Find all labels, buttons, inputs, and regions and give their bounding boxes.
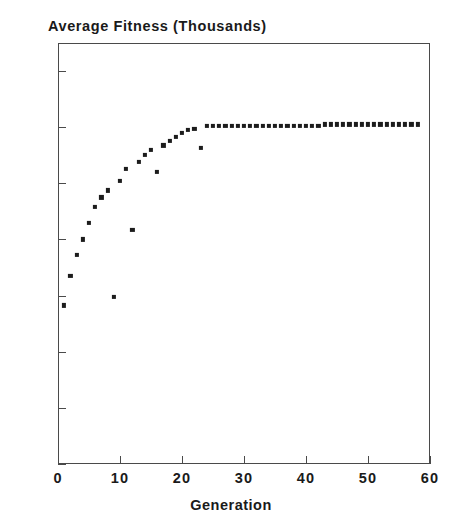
data-point xyxy=(236,124,240,128)
data-point xyxy=(174,135,178,139)
data-point xyxy=(149,148,153,152)
data-point xyxy=(199,146,203,150)
data-point xyxy=(87,221,91,225)
data-point xyxy=(248,124,252,128)
data-point xyxy=(161,143,165,147)
data-point xyxy=(75,253,79,257)
data-point xyxy=(385,122,389,126)
data-point xyxy=(273,124,277,128)
data-point xyxy=(323,122,327,126)
data-point xyxy=(347,122,351,126)
data-point xyxy=(68,274,72,278)
data-point xyxy=(168,139,172,143)
data-point xyxy=(155,170,159,174)
data-point xyxy=(279,124,283,128)
data-point xyxy=(378,122,382,126)
data-point xyxy=(341,122,345,126)
data-point xyxy=(143,153,147,157)
data-point xyxy=(81,237,85,241)
data-point xyxy=(254,124,258,128)
data-point xyxy=(192,127,196,131)
data-point xyxy=(99,195,103,199)
data-point xyxy=(180,131,184,135)
data-point xyxy=(285,124,289,128)
x-axis-title: Generation xyxy=(0,497,462,513)
x-tick-label: 50 xyxy=(338,470,398,486)
data-point xyxy=(304,124,308,128)
x-tick-label: 10 xyxy=(90,470,150,486)
data-point xyxy=(130,228,134,232)
x-tick-label: 40 xyxy=(276,470,336,486)
data-point xyxy=(298,124,302,128)
fitness-chart-figure: Average Fitness (Thousands) 200202204206… xyxy=(0,0,462,528)
data-point xyxy=(223,124,227,128)
data-point xyxy=(242,124,246,128)
data-point xyxy=(93,205,97,209)
x-tick-label: 20 xyxy=(152,470,212,486)
data-point xyxy=(211,124,215,128)
data-point xyxy=(267,124,271,128)
x-tick-label: 30 xyxy=(214,470,274,486)
data-point xyxy=(118,178,122,182)
plot-data-area xyxy=(58,43,430,464)
data-point xyxy=(292,124,296,128)
x-tick-label: 60 xyxy=(400,470,460,486)
data-point xyxy=(186,128,190,132)
data-point xyxy=(62,303,66,307)
data-point xyxy=(416,122,420,126)
x-tick-label: 0 xyxy=(28,470,88,486)
data-point xyxy=(391,122,395,126)
y-tick-mark xyxy=(58,464,66,465)
data-point xyxy=(137,160,141,164)
data-point xyxy=(335,122,339,126)
data-point xyxy=(310,124,314,128)
data-point xyxy=(360,122,364,126)
data-point xyxy=(124,167,128,171)
data-point xyxy=(106,188,110,192)
data-point xyxy=(366,122,370,126)
data-point xyxy=(205,124,209,128)
data-point xyxy=(354,122,358,126)
data-point xyxy=(403,122,407,126)
data-point xyxy=(230,124,234,128)
data-point xyxy=(112,295,116,299)
chart-title: Average Fitness (Thousands) xyxy=(48,18,267,34)
data-point xyxy=(397,122,401,126)
data-point xyxy=(409,122,413,126)
data-point xyxy=(217,124,221,128)
data-point xyxy=(329,122,333,126)
x-tick-mark xyxy=(430,456,431,464)
data-point xyxy=(316,124,320,128)
data-point xyxy=(261,124,265,128)
data-point xyxy=(372,122,376,126)
